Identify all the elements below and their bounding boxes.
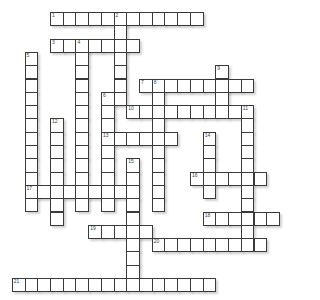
crossword-cell[interactable] <box>75 105 89 119</box>
crossword-cell[interactable] <box>139 12 153 26</box>
crossword-cell[interactable] <box>164 105 178 119</box>
crossword-cell[interactable] <box>101 118 115 132</box>
crossword-cell[interactable] <box>50 158 64 172</box>
crossword-cell[interactable] <box>88 39 102 53</box>
crossword-cell[interactable] <box>25 172 39 186</box>
crossword-cell[interactable] <box>254 172 268 186</box>
crossword-cell[interactable] <box>177 79 191 93</box>
crossword-cell[interactable]: 7 <box>139 79 153 93</box>
crossword-cell[interactable] <box>50 278 64 292</box>
crossword-cell[interactable] <box>50 145 64 159</box>
crossword-cell[interactable] <box>241 158 255 172</box>
crossword-cell[interactable] <box>25 132 39 146</box>
crossword-cell[interactable] <box>152 118 166 132</box>
crossword-cell[interactable] <box>190 238 204 252</box>
crossword-cell[interactable] <box>75 172 89 186</box>
crossword-cell[interactable] <box>152 185 166 199</box>
crossword-cell[interactable]: 18 <box>203 212 217 226</box>
crossword-cell[interactable] <box>50 185 64 199</box>
crossword-cell[interactable]: 2 <box>114 12 128 26</box>
crossword-cell[interactable] <box>139 105 153 119</box>
crossword-cell[interactable] <box>190 278 204 292</box>
crossword-cell[interactable] <box>114 79 128 93</box>
crossword-cell[interactable]: 16 <box>190 172 204 186</box>
crossword-cell[interactable] <box>241 172 255 186</box>
crossword-cell[interactable] <box>164 238 178 252</box>
crossword-cell[interactable] <box>50 172 64 186</box>
crossword-cell[interactable] <box>164 132 178 146</box>
crossword-cell[interactable] <box>114 25 128 39</box>
crossword-cell[interactable] <box>164 79 178 93</box>
crossword-cell[interactable] <box>203 278 217 292</box>
crossword-cell[interactable] <box>63 278 77 292</box>
crossword-cell[interactable] <box>241 79 255 93</box>
crossword-cell[interactable] <box>101 145 115 159</box>
crossword-cell[interactable] <box>241 118 255 132</box>
crossword-cell[interactable] <box>215 92 229 106</box>
crossword-cell[interactable]: 9 <box>215 65 229 79</box>
crossword-cell[interactable] <box>63 39 77 53</box>
crossword-cell[interactable] <box>228 172 242 186</box>
crossword-cell[interactable] <box>88 278 102 292</box>
crossword-cell[interactable] <box>164 12 178 26</box>
crossword-cell[interactable] <box>177 238 191 252</box>
crossword-cell[interactable] <box>37 278 51 292</box>
crossword-cell[interactable] <box>25 92 39 106</box>
crossword-cell[interactable]: 17 <box>25 185 39 199</box>
crossword-cell[interactable] <box>254 212 268 226</box>
crossword-cell[interactable] <box>177 12 191 26</box>
crossword-cell[interactable] <box>75 12 89 26</box>
crossword-cell[interactable] <box>101 158 115 172</box>
crossword-cell[interactable] <box>139 278 153 292</box>
crossword-cell[interactable] <box>215 79 229 93</box>
crossword-cell[interactable] <box>266 212 280 226</box>
crossword-cell[interactable] <box>75 52 89 66</box>
crossword-cell[interactable] <box>25 278 39 292</box>
crossword-cell[interactable]: 5 <box>25 52 39 66</box>
crossword-cell[interactable]: 4 <box>75 39 89 53</box>
crossword-cell[interactable]: 8 <box>152 79 166 93</box>
crossword-cell[interactable] <box>126 12 140 26</box>
crossword-cell[interactable]: 12 <box>50 118 64 132</box>
crossword-cell[interactable] <box>114 65 128 79</box>
crossword-cell[interactable] <box>101 12 115 26</box>
crossword-cell[interactable] <box>114 132 128 146</box>
crossword-cell[interactable] <box>25 65 39 79</box>
crossword-cell[interactable] <box>152 158 166 172</box>
crossword-cell[interactable]: 19 <box>88 225 102 239</box>
crossword-cell[interactable] <box>241 145 255 159</box>
crossword-cell[interactable] <box>126 132 140 146</box>
crossword-cell[interactable]: 3 <box>50 39 64 53</box>
crossword-cell[interactable]: 14 <box>203 132 217 146</box>
crossword-cell[interactable] <box>114 225 128 239</box>
crossword-cell[interactable] <box>101 172 115 186</box>
crossword-cell[interactable] <box>203 145 217 159</box>
crossword-cell[interactable] <box>114 39 128 53</box>
crossword-cell[interactable] <box>75 198 89 212</box>
crossword-cell[interactable] <box>228 105 242 119</box>
crossword-cell[interactable] <box>152 198 166 212</box>
crossword-cell[interactable] <box>228 212 242 226</box>
crossword-cell[interactable] <box>114 185 128 199</box>
crossword-cell[interactable] <box>126 172 140 186</box>
crossword-cell[interactable]: 20 <box>152 238 166 252</box>
crossword-cell[interactable] <box>101 198 115 212</box>
crossword-cell[interactable] <box>241 238 255 252</box>
crossword-cell[interactable] <box>203 185 217 199</box>
crossword-cell[interactable] <box>126 238 140 252</box>
crossword-cell[interactable] <box>25 158 39 172</box>
crossword-cell[interactable]: 11 <box>241 105 255 119</box>
crossword-cell[interactable] <box>190 12 204 26</box>
crossword-cell[interactable] <box>152 92 166 106</box>
crossword-cell[interactable] <box>215 238 229 252</box>
crossword-cell[interactable] <box>101 225 115 239</box>
crossword-cell[interactable] <box>190 79 204 93</box>
crossword-cell[interactable] <box>101 105 115 119</box>
crossword-cell[interactable] <box>203 79 217 93</box>
crossword-cell[interactable]: 15 <box>126 158 140 172</box>
crossword-cell[interactable] <box>88 12 102 26</box>
crossword-cell[interactable]: 10 <box>126 105 140 119</box>
crossword-cell[interactable] <box>25 105 39 119</box>
crossword-cell[interactable] <box>101 278 115 292</box>
crossword-cell[interactable] <box>215 212 229 226</box>
